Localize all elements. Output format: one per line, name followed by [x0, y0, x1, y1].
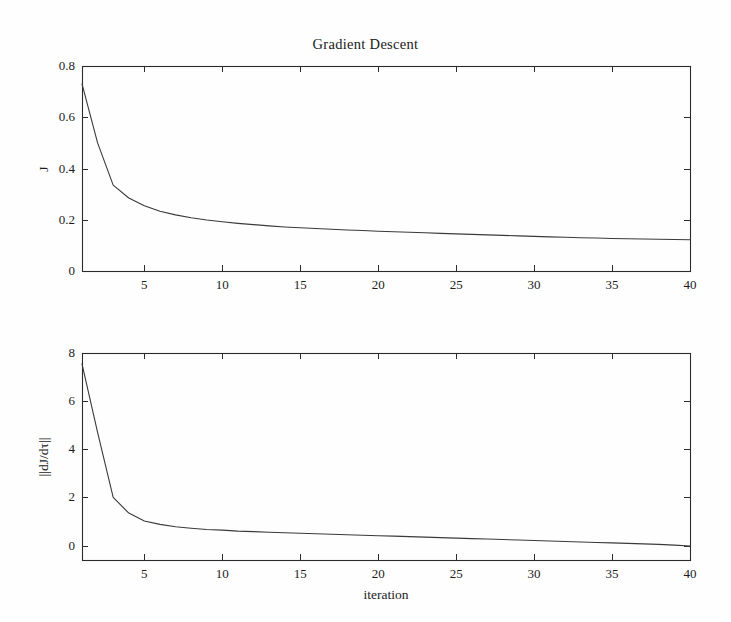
x-tick-label: 20: [372, 277, 385, 293]
y-axis-label-top: J: [36, 166, 52, 171]
x-tick-label: 30: [528, 566, 541, 582]
x-tick-label: 40: [684, 277, 697, 293]
figure-canvas: Gradient Descent 51015202530354000.20.40…: [0, 0, 731, 622]
plot-axes-and-series: [0, 0, 731, 622]
y-tick-label: 0.6: [20, 109, 75, 125]
x-tick-label: 30: [528, 277, 541, 293]
axes-frame-top: [83, 67, 691, 272]
x-tick-label: 25: [450, 277, 463, 293]
y-tick-label: 0.8: [20, 58, 75, 74]
x-tick-label: 25: [450, 566, 463, 582]
y-tick-label: 0: [20, 263, 75, 279]
axes-frame-bottom: [83, 354, 691, 561]
x-tick-label: 5: [141, 566, 148, 582]
data-series-bottom: [82, 364, 690, 546]
x-tick-label: 15: [294, 566, 307, 582]
x-axis-label-bottom: iteration: [364, 587, 409, 603]
y-tick-label: 0: [20, 538, 75, 554]
x-tick-label: 10: [216, 277, 229, 293]
x-tick-label: 40: [684, 566, 697, 582]
x-tick-label: 35: [606, 566, 619, 582]
x-tick-label: 5: [141, 277, 148, 293]
data-series-top: [82, 84, 690, 240]
y-tick-label: 6: [20, 393, 75, 409]
x-tick-label: 35: [606, 277, 619, 293]
x-tick-label: 20: [372, 566, 385, 582]
y-axis-label-bottom: ||dJ/dτ||: [36, 437, 52, 476]
y-tick-label: 2: [20, 489, 75, 505]
y-tick-label: 8: [20, 345, 75, 361]
x-tick-label: 10: [216, 566, 229, 582]
x-tick-label: 15: [294, 277, 307, 293]
y-tick-label: 0.2: [20, 212, 75, 228]
